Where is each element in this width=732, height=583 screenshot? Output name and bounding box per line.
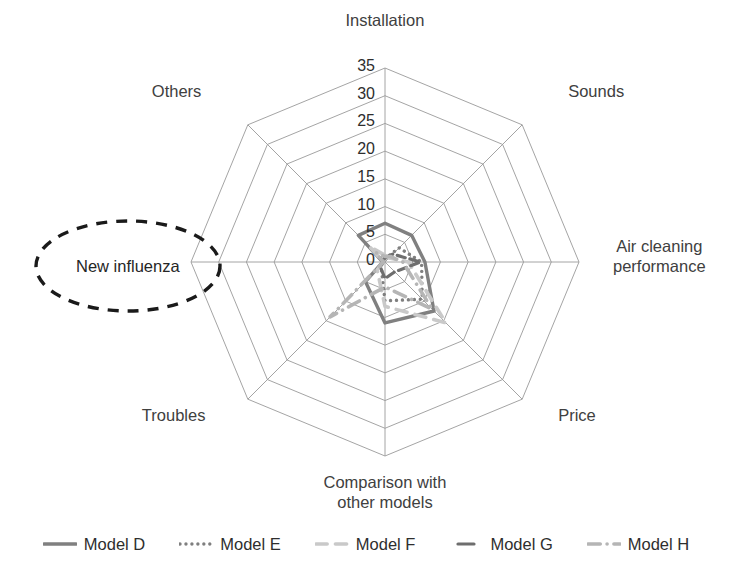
axis-label-troubles: Troubles [142,405,206,425]
radial-tick-label: 5 [337,223,375,241]
legend-swatch-dotted [179,537,213,551]
axis-spoke [385,125,522,262]
axis-label-line: Installation [346,10,425,30]
radial-tick-label: 10 [337,196,375,214]
legend-item-model-g[interactable]: Model G [449,535,552,554]
legend-item-model-e[interactable]: Model E [179,535,281,554]
legend-swatch-solid-short [449,537,483,551]
axis-label-line: Others [152,81,202,101]
legend-swatch-dashdot [587,537,621,551]
legend-label: Model E [220,535,281,554]
radial-tick-label: 35 [337,57,375,75]
new-influenza-label: New influenza [76,257,180,276]
axis-label-line: Comparison with [324,472,447,492]
axis-label-line: Price [558,405,596,425]
legend-label: Model D [84,535,145,554]
legend-swatch-dashed [315,537,349,551]
legend-item-model-d[interactable]: Model D [43,535,145,554]
axis-label-comparison-with-other-models: Comparison withother models [324,472,447,512]
radial-tick-label: 0 [337,251,375,269]
axis-label-sounds: Sounds [568,81,624,101]
axis-spoke [385,262,522,399]
radar-chart: 05101520253035 InstallationSoundsAir cle… [0,0,732,583]
legend-item-model-f[interactable]: Model F [315,535,416,554]
axis-label-line: Air cleaning [613,236,706,256]
legend-item-model-h[interactable]: Model H [587,535,689,554]
legend-label: Model G [490,535,552,554]
legend-label: Model F [356,535,416,554]
radial-tick-label: 25 [337,112,375,130]
axis-label-line: performance [613,256,706,276]
legend-swatch-solid [43,537,77,551]
chart-legend: Model DModel EModel FModel GModel H [0,524,732,564]
radial-tick-label: 20 [337,140,375,158]
axis-label-others: Others [152,81,202,101]
radial-tick-label: 30 [337,85,375,103]
legend-label: Model H [628,535,689,554]
axis-label-line: Troubles [142,405,206,425]
axis-label-line: Sounds [568,81,624,101]
axis-label-installation: Installation [346,10,425,30]
radial-tick-label: 15 [337,168,375,186]
axis-label-air-cleaning-performance: Air cleaningperformance [613,236,706,276]
axis-label-line: other models [324,492,447,512]
axis-label-price: Price [558,405,596,425]
